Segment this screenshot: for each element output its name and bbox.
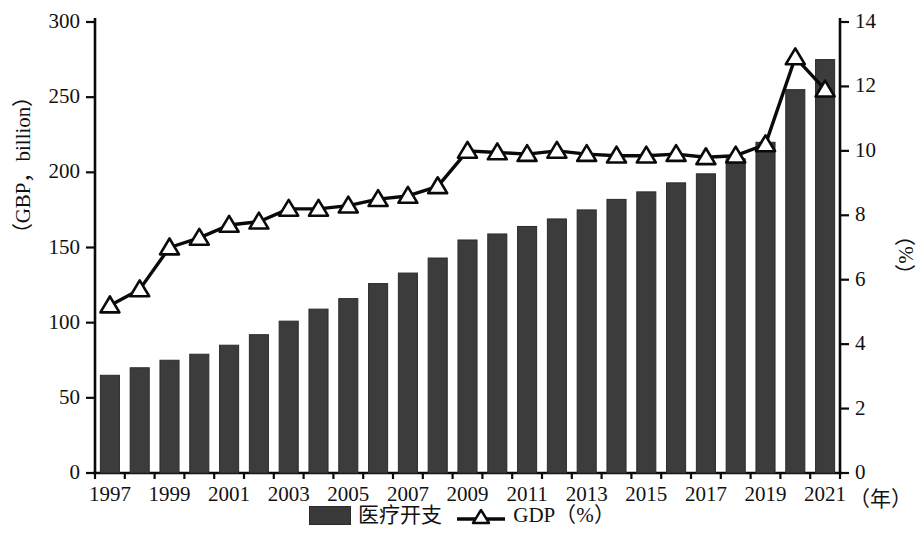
bar-2008 — [428, 258, 447, 473]
chart-legend: 医疗开支 GDP（%） — [0, 505, 924, 526]
bar-2021 — [816, 60, 835, 473]
bar-2006 — [369, 284, 388, 473]
bar-2010 — [488, 234, 507, 473]
y-axis-left-tick-50: 50 — [0, 385, 80, 410]
bar-1997 — [100, 375, 119, 473]
chart-canvas — [0, 0, 924, 538]
bar-2001 — [220, 345, 239, 473]
bar-2013 — [577, 210, 596, 473]
bar-2017 — [696, 174, 715, 473]
legend-label-bar: 医疗开支 — [358, 505, 442, 526]
bar-2014 — [607, 199, 626, 473]
bar-2000 — [190, 354, 209, 473]
y-axis-left-tick-100: 100 — [0, 310, 80, 335]
legend-line-triangle-icon — [456, 507, 506, 525]
legend-item-line: GDP（%） — [456, 505, 615, 526]
bars-group — [100, 60, 834, 473]
y-axis-left-tick-300: 300 — [0, 9, 80, 34]
y-axis-right-tick-14: 14 — [855, 9, 876, 34]
bar-2016 — [667, 183, 686, 473]
legend-label-line: GDP（%） — [513, 505, 615, 526]
gdp-marker-2012 — [547, 142, 566, 158]
bar-2011 — [518, 226, 537, 473]
bar-2007 — [398, 273, 417, 473]
gdp-marker-2020 — [786, 48, 805, 64]
bar-2003 — [279, 321, 298, 473]
y-axis-right-title: （%） — [889, 210, 919, 300]
bar-1999 — [160, 360, 179, 473]
y-axis-right-tick-6: 6 — [855, 267, 866, 292]
bar-2005 — [339, 299, 358, 473]
legend-bar-swatch-icon — [309, 506, 351, 525]
y-axis-left-tick-0: 0 — [0, 460, 80, 485]
y-axis-right-tick-12: 12 — [855, 73, 876, 98]
bar-2004 — [309, 309, 328, 473]
y-axis-right-tick-8: 8 — [855, 202, 866, 227]
bar-2012 — [547, 219, 566, 473]
bar-2002 — [249, 335, 268, 473]
bar-2015 — [637, 192, 656, 473]
y-axis-right-tick-2: 2 — [855, 396, 866, 421]
chart-root: 300250200150100500 14121086420 199719992… — [0, 0, 924, 538]
bar-2018 — [726, 159, 745, 473]
y-axis-right-tick-4: 4 — [855, 331, 866, 356]
bar-2009 — [458, 240, 477, 473]
y-axis-right-tick-10: 10 — [855, 138, 876, 163]
bar-2020 — [786, 90, 805, 473]
bar-2019 — [756, 142, 775, 473]
bar-1998 — [130, 368, 149, 473]
gdp-marker-1997 — [100, 296, 119, 312]
legend-item-bar: 医疗开支 — [309, 505, 442, 526]
y-axis-left-title: （GBP，billion） — [6, 55, 36, 275]
